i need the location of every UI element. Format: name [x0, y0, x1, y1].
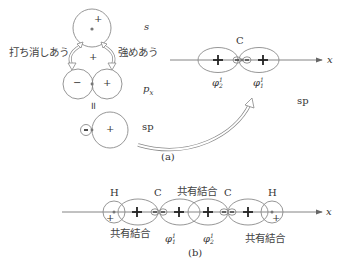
sp-plus-sign: + [106, 124, 114, 134]
atom-c-right: C [224, 188, 232, 198]
px-minus-sign: − [73, 78, 81, 88]
bond-label-top: 共有結合 [177, 186, 217, 197]
s-orbital-label: s [144, 22, 149, 32]
sp-label: sp [142, 122, 154, 132]
h-left-plus: + [106, 213, 114, 223]
bond-label-right: 共有結合 [245, 233, 285, 244]
px-orbital-label: px [143, 84, 153, 97]
x-axis-label-a: x [327, 55, 333, 65]
phi1-label-b: φ11 [165, 233, 176, 245]
atom-h-right: H [268, 188, 277, 198]
phi2-label-b: φ12 [203, 233, 214, 245]
phi1-label-a: φ11 [253, 77, 264, 89]
center-plus-sign: + [89, 52, 97, 62]
caption-a: (a) [161, 152, 175, 162]
s-plus-sign: + [94, 14, 102, 24]
sp-label-right: sp [297, 96, 309, 106]
reinforce-label: 強めあう [118, 47, 158, 58]
carbon-label-a: C [236, 36, 244, 46]
sp-hybridization-diagram: + s 打ち消しあう 強めあう + − + px ॥ + sp C x φ12 … [0, 0, 337, 267]
atom-c-left: C [154, 188, 162, 198]
x-axis-label-b: x [326, 207, 332, 217]
equals-symbol: ॥ [90, 101, 96, 111]
diagram-graphics [0, 0, 337, 267]
phi2-label-a: φ12 [212, 77, 223, 89]
h-right-plus: + [272, 213, 280, 223]
bond-label-left: 共有結合 [110, 228, 150, 239]
atom-h-left: H [110, 188, 119, 198]
cancel-label: 打ち消しあう [9, 47, 69, 58]
px-plus-sign: + [103, 78, 111, 88]
caption-b: (b) [188, 248, 202, 258]
